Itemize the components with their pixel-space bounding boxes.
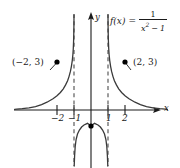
fraction: 1 x2−1: [139, 10, 167, 33]
denominator-term: 1: [160, 24, 165, 33]
point-label-left: (−2, 3): [12, 58, 44, 67]
y-axis-label: y: [95, 13, 100, 22]
leader-line-right: [126, 64, 131, 71]
leader-line-left: [50, 64, 56, 71]
x-tick-label-pos2: 2: [122, 114, 128, 123]
point-marker-vertex: [88, 123, 93, 128]
point-label-right: (2, 3): [133, 58, 157, 67]
y-axis: [88, 12, 94, 168]
x-axis-label: x: [164, 104, 169, 113]
denominator-operator: −: [151, 24, 158, 33]
denominator-exponent: 2: [146, 21, 150, 28]
function-formula: f(x) = 1 x2−1: [110, 10, 167, 33]
function-name: f(x): [110, 16, 125, 26]
x-tick-label-pos1: 1: [106, 114, 112, 123]
x-tick-label-neg1: −1: [68, 114, 81, 123]
fraction-numerator: 1: [148, 10, 159, 19]
x-tick-label-neg2: −2: [51, 114, 64, 123]
equals-sign: =: [128, 16, 136, 26]
function-graph-figure: −2 −1 1 2 x y (−2, 3) (2, 3) f(x) = 1 x2…: [0, 0, 180, 168]
x-axis: [14, 107, 161, 113]
point-marker-right: [122, 59, 127, 64]
fraction-denominator: x2−1: [139, 20, 167, 33]
